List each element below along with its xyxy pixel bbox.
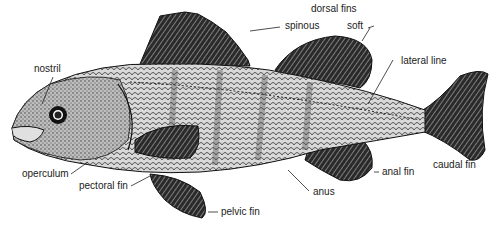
label-anus: anus: [313, 187, 335, 197]
label-anal-fin: anal fin: [382, 167, 414, 177]
fish-illustration: [0, 0, 493, 228]
label-pectoral-fin: pectoral fin: [79, 181, 128, 191]
fish-anatomy-diagram: dorsal fins spinous soft nostril lateral…: [0, 0, 493, 228]
label-nostril: nostril: [34, 64, 61, 74]
label-operculum: operculum: [22, 169, 69, 179]
label-lateral-line: lateral line: [401, 56, 447, 66]
label-soft: soft: [347, 21, 363, 31]
label-caudal-fin: caudal fin: [433, 160, 476, 170]
label-pelvic-fin: pelvic fin: [221, 207, 260, 217]
caudal-fin: [420, 71, 488, 160]
label-dorsal-fins: dorsal fins: [311, 4, 357, 14]
label-spinous: spinous: [285, 21, 319, 31]
pelvic-fin: [150, 174, 206, 218]
spinous-dorsal-fin: [140, 12, 250, 66]
